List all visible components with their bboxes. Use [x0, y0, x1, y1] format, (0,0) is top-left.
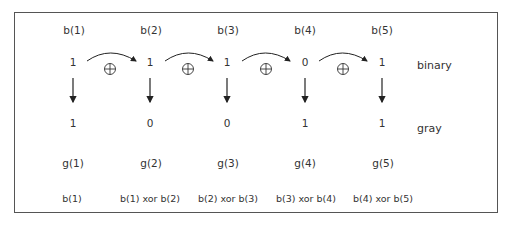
- gray-label: g(1): [62, 157, 84, 169]
- formula: b(4) xor b(5): [353, 193, 413, 205]
- bit-label: b(5): [371, 24, 393, 36]
- formula: b(2) xor b(3): [198, 193, 258, 205]
- gray-row-label: gray: [417, 123, 442, 135]
- binary-bit: 1: [379, 56, 386, 68]
- gray-bit: 1: [379, 117, 386, 129]
- bit-label: b(1): [63, 24, 85, 36]
- bit-label: b(2): [140, 24, 162, 36]
- down-arrow-icon: [73, 78, 382, 102]
- gray-bit: 0: [224, 117, 231, 129]
- gray-label: g(3): [217, 157, 239, 169]
- binary-bit: 1: [70, 56, 77, 68]
- gray-bit: 0: [147, 117, 154, 129]
- gray-bit: 1: [302, 117, 309, 129]
- formula: b(1) xor b(2): [120, 193, 180, 205]
- gray-label: g(5): [372, 157, 394, 169]
- binary-bit: 1: [224, 56, 231, 68]
- gray-label: g(2): [140, 157, 162, 169]
- binary-bit: 1: [147, 56, 154, 68]
- gray-label: g(4): [294, 157, 316, 169]
- formula: b(3) xor b(4): [276, 193, 336, 205]
- binary-bit: 0: [302, 56, 309, 68]
- bit-label: b(4): [294, 24, 316, 36]
- binary-row-label: binary: [417, 60, 452, 72]
- bit-label: b(3): [217, 24, 239, 36]
- formula: b(1): [62, 193, 82, 205]
- gray-bit: 1: [70, 117, 77, 129]
